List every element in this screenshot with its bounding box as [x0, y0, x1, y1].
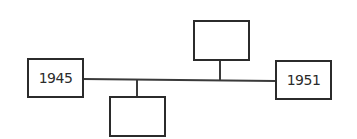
event-box-above [193, 20, 250, 61]
event-box-below [109, 96, 166, 137]
start-year-label: 1945 [39, 70, 73, 86]
timeline-axis [83, 78, 275, 82]
connector-below [136, 79, 138, 97]
timeline-diagram: 1945 1951 [0, 0, 357, 139]
end-year-label: 1951 [287, 72, 321, 88]
start-year-box: 1945 [27, 58, 84, 98]
connector-above [219, 60, 221, 80]
end-year-box: 1951 [275, 60, 332, 100]
